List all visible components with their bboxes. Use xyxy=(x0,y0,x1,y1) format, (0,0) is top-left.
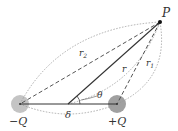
theta-arc xyxy=(77,96,80,104)
r1-label: r1 xyxy=(146,58,154,69)
theta-pointer xyxy=(81,96,97,100)
r-label: r xyxy=(122,64,127,74)
positive-center-dot xyxy=(116,103,118,105)
dipole-diagram: P −Q +Q δ θ r2 r r1 xyxy=(0,0,178,131)
point-p-label: P xyxy=(161,6,171,20)
negative-charge-label: −Q xyxy=(9,115,27,128)
positive-charge-label: +Q xyxy=(108,115,126,128)
negative-center-dot xyxy=(19,103,21,105)
r2-label: r2 xyxy=(79,48,87,59)
point-p-dot xyxy=(158,20,162,24)
theta-label: θ xyxy=(97,90,103,100)
delta-label: δ xyxy=(65,109,71,120)
